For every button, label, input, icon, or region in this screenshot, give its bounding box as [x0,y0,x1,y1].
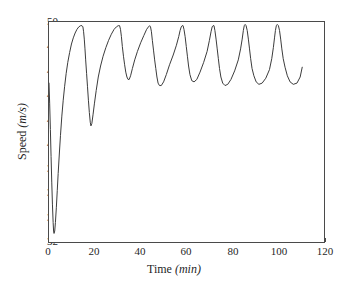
x-tick-label: 80 [213,246,253,257]
x-axis-title: Time (min) [0,262,348,277]
x-tick-label: 40 [120,246,160,257]
x-axis-title-unit: (min) [175,262,201,276]
speed-curve [49,22,324,242]
x-tick-label: 100 [259,246,299,257]
y-axis-title: Speed (m/s) [15,62,30,202]
x-tick-label: 120 [305,246,345,257]
y-axis-title-unit: (m/s) [15,103,29,128]
x-tick-mark [325,238,326,242]
x-tick-label: 20 [74,246,114,257]
x-tick-label: 0 [28,246,68,257]
chart-figure: 50 48 46 44 42 40 38 36 34 32 0 20 40 60… [0,0,348,288]
y-axis-title-text: Speed [15,131,29,160]
x-tick-label: 60 [166,246,206,257]
x-axis-title-text: Time [147,262,172,276]
plot-area [48,21,325,243]
